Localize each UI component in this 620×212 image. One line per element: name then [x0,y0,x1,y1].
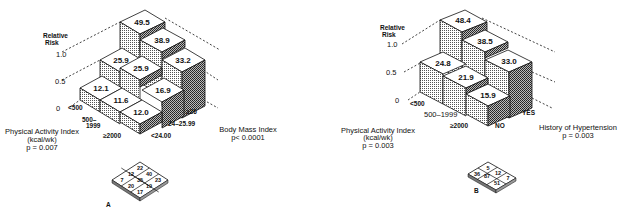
bar-value: 49.5 [134,18,150,27]
z-tick: 0 [56,104,60,113]
panel-b-chart: 48.4 38.5 33.0 24.8 21.9 15.9 Relative R… [341,10,617,150]
bar-value: 25.9 [133,64,149,73]
y-tick: NO [495,122,505,129]
y-tick: 24–25.99 [168,120,195,127]
z-axis-label: Relative [43,32,68,39]
grid-count: 20 [128,183,134,189]
grid-count: 7 [506,175,509,181]
x-axis-pvalue: p = 0.003 [362,141,394,150]
y-tick: ≥26 [186,108,197,115]
grid-count: 23 [155,177,161,183]
grid-count: 7 [120,177,123,183]
x-axis-pvalue: p = 0.007 [26,143,58,152]
panel-letter: B [474,187,479,194]
bar-value: 21.9 [458,73,474,82]
grid-count: 12 [495,170,501,176]
bar-value: 25.9 [113,56,129,65]
count-grid-a: 22 12 40 7 35 23 20 19 17 [112,162,168,201]
bar-value: 12.1 [93,84,109,93]
bar-value: 15.9 [480,91,496,100]
grid-count: 36 [474,171,480,177]
grid-count: 35 [137,177,143,183]
figure: 49.5 38.9 33.2 25.9 25.9 16.9 12.1 11.6 … [0,0,620,212]
grid-count: 12 [128,171,134,177]
bar-value: 24.8 [435,59,451,68]
x-tick: ≥2000 [450,122,468,129]
z-axis-label: Risk [382,31,396,38]
panel-letter: A [106,201,111,208]
y-axis-pvalue: p< 0.0001 [231,133,265,142]
grid-count: 17 [137,189,143,195]
z-axis-label: Risk [45,39,59,46]
grid-count: 51 [494,180,500,186]
x-tick: ≥2000 [103,132,121,139]
x-tick: <500 [68,104,83,111]
bar-value: 11.6 [113,96,129,105]
bar-value: 38.9 [154,36,170,45]
y-tick: YES [522,109,536,116]
x-tick: 500–1999 [424,110,457,119]
bar-value: 33.2 [175,56,191,65]
bar-value: 48.4 [455,16,471,25]
x-tick: 1999 [86,122,101,129]
z-tick: 1.0 [56,50,66,59]
grid-count: 5 [486,165,489,171]
bar-value: 38.5 [477,37,493,46]
bar-value: 16.9 [155,86,171,95]
x-tick: <500 [410,100,425,107]
z-tick: 0 [395,96,399,105]
y-tick: <24.00 [151,132,171,139]
z-tick: 0.5 [55,77,65,86]
grid-count: 40 [146,171,152,177]
y-axis-pvalue: p = 0.003 [562,131,594,140]
z-tick: 1.0 [387,40,397,49]
bar-value: 33.0 [501,57,517,66]
grid-count: 22 [137,165,143,171]
z-axis-label: Relative [380,24,405,31]
panel-a-chart: 49.5 38.9 33.2 25.9 25.9 16.9 12.1 11.6 … [5,10,277,152]
grid-count: 19 [146,183,152,189]
grid-count: 87 [484,173,490,179]
z-tick: 0.5 [386,68,396,77]
bar-value: 12.0 [133,108,149,117]
